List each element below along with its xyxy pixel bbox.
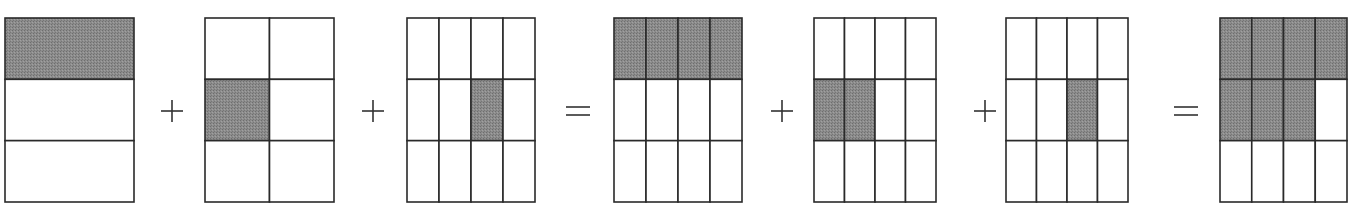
unshaded-cell <box>814 18 845 79</box>
unshaded-cell <box>906 18 937 79</box>
unshaded-cell <box>1098 79 1129 140</box>
unshaded-cell <box>1006 18 1037 79</box>
unshaded-cell <box>471 18 503 79</box>
plus-sign <box>974 100 996 122</box>
unshaded-cell <box>205 18 270 79</box>
unshaded-cell <box>270 18 335 79</box>
shaded-cell <box>1284 79 1316 140</box>
unshaded-cell <box>1037 79 1068 140</box>
unshaded-cell <box>439 79 471 140</box>
shaded-cell <box>1315 18 1347 79</box>
unshaded-cell <box>710 79 742 140</box>
unshaded-cell <box>1006 141 1037 202</box>
unshaded-cell <box>407 141 439 202</box>
unshaded-cell <box>646 141 678 202</box>
unshaded-cell <box>407 18 439 79</box>
unshaded-cell <box>1315 141 1347 202</box>
grids-layer <box>5 18 1347 202</box>
unshaded-cell <box>1067 18 1098 79</box>
unshaded-cell <box>614 79 646 140</box>
unshaded-cell <box>205 141 270 202</box>
grid-one-twelfth-b <box>1006 18 1128 202</box>
unshaded-cell <box>875 18 906 79</box>
unshaded-cell <box>1284 141 1316 202</box>
unshaded-cell <box>503 18 535 79</box>
unshaded-cell <box>845 18 876 79</box>
shaded-cell <box>5 18 134 79</box>
plus-sign <box>771 100 793 122</box>
unshaded-cell <box>906 79 937 140</box>
unshaded-cell <box>875 79 906 140</box>
unshaded-cell <box>1220 141 1252 202</box>
unshaded-cell <box>5 141 134 202</box>
unshaded-cell <box>906 141 937 202</box>
unshaded-cell <box>845 141 876 202</box>
shaded-cell <box>614 18 646 79</box>
unshaded-cell <box>5 79 134 140</box>
unshaded-cell <box>1252 141 1284 202</box>
unshaded-cell <box>1098 18 1129 79</box>
shaded-cell <box>471 79 503 140</box>
grid-one-sixth <box>205 18 334 202</box>
unshaded-cell <box>814 141 845 202</box>
equals-sign <box>1174 107 1198 115</box>
grid-four-twelfths <box>614 18 742 202</box>
plus-sign <box>362 100 384 122</box>
unshaded-cell <box>471 141 503 202</box>
shaded-cell <box>845 79 876 140</box>
shaded-cell <box>1067 79 1098 140</box>
unshaded-cell <box>1315 79 1347 140</box>
unshaded-cell <box>1037 141 1068 202</box>
shaded-cell <box>1284 18 1316 79</box>
equals-sign <box>566 107 590 115</box>
unshaded-cell <box>678 79 710 140</box>
unshaded-cell <box>439 141 471 202</box>
unshaded-cell <box>1067 141 1098 202</box>
unshaded-cell <box>875 141 906 202</box>
unshaded-cell <box>614 141 646 202</box>
grid-one-twelfth <box>407 18 535 202</box>
shaded-cell <box>205 79 270 140</box>
shaded-cell <box>1220 18 1252 79</box>
unshaded-cell <box>646 79 678 140</box>
shaded-cell <box>814 79 845 140</box>
fraction-area-model-diagram <box>0 0 1352 216</box>
shaded-cell <box>710 18 742 79</box>
grid-one-third <box>5 18 134 202</box>
unshaded-cell <box>407 79 439 140</box>
shaded-cell <box>646 18 678 79</box>
plus-sign <box>161 100 183 122</box>
shaded-cell <box>678 18 710 79</box>
unshaded-cell <box>503 141 535 202</box>
unshaded-cell <box>1037 18 1068 79</box>
shaded-cell <box>1252 79 1284 140</box>
unshaded-cell <box>270 141 335 202</box>
unshaded-cell <box>678 141 710 202</box>
grid-seven-twelfths <box>1220 18 1347 202</box>
unshaded-cell <box>1098 141 1129 202</box>
unshaded-cell <box>503 79 535 140</box>
unshaded-cell <box>439 18 471 79</box>
grid-two-twelfths <box>814 18 936 202</box>
shaded-cell <box>1252 18 1284 79</box>
unshaded-cell <box>1006 79 1037 140</box>
unshaded-cell <box>710 141 742 202</box>
unshaded-cell <box>270 79 335 140</box>
shaded-cell <box>1220 79 1252 140</box>
